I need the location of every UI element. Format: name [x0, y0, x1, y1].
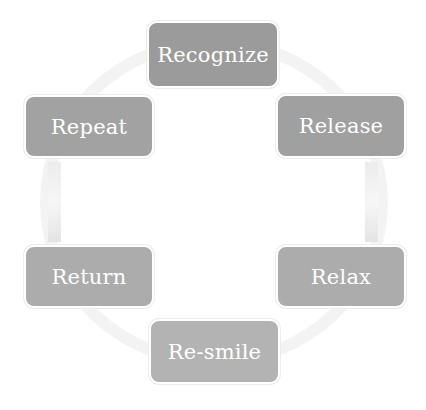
node-release: Release — [276, 94, 406, 158]
node-recognize: Recognize — [147, 21, 279, 88]
node-relax: Relax — [276, 245, 406, 308]
node-return: Return — [24, 245, 154, 308]
node-label: Recognize — [157, 43, 269, 67]
node-repeat: Repeat — [24, 95, 154, 158]
node-re-smile: Re-smile — [149, 319, 280, 384]
connector-release-relax — [365, 162, 378, 242]
connector-repeat-return — [48, 162, 61, 242]
node-label: Relax — [311, 265, 371, 289]
node-label: Repeat — [51, 115, 127, 139]
node-label: Return — [52, 265, 127, 289]
node-label: Release — [299, 114, 384, 138]
node-label: Re-smile — [168, 340, 262, 364]
